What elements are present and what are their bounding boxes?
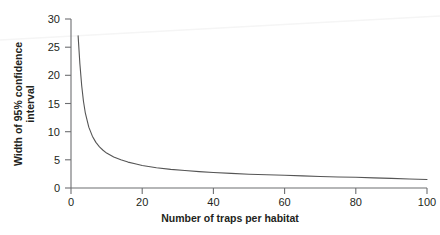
data-series-line	[78, 36, 427, 180]
x-tick-label-100: 100	[418, 196, 436, 208]
x-tick-label-40: 40	[207, 196, 219, 208]
scan-artifact-line	[0, 16, 440, 40]
x-axis-ticks	[71, 188, 427, 194]
x-tick-label-0: 0	[68, 196, 74, 208]
y-axis-title-line1: Width of 95% confidence	[12, 42, 24, 166]
y-tick-label-30: 30	[48, 13, 60, 25]
chart-figure: 30 25 20 15 10 5 0 0 20 40 60 80 100 Num…	[0, 0, 440, 235]
x-axis-title: Number of traps per habitat	[161, 212, 299, 224]
y-axis-title-line2: interval	[24, 85, 36, 122]
x-tick-label-20: 20	[136, 196, 148, 208]
y-tick-label-20: 20	[48, 69, 60, 81]
chart-canvas: 30 25 20 15 10 5 0 0 20 40 60 80 100 Num…	[0, 0, 440, 235]
x-tick-label-60: 60	[278, 196, 290, 208]
y-tick-label-15: 15	[48, 98, 60, 110]
y-tick-label-10: 10	[48, 126, 60, 138]
y-axis-ticks	[65, 19, 71, 188]
y-tick-label-5: 5	[54, 154, 60, 166]
y-tick-label-0: 0	[54, 182, 60, 194]
y-tick-label-25: 25	[48, 41, 60, 53]
x-tick-label-80: 80	[350, 196, 362, 208]
